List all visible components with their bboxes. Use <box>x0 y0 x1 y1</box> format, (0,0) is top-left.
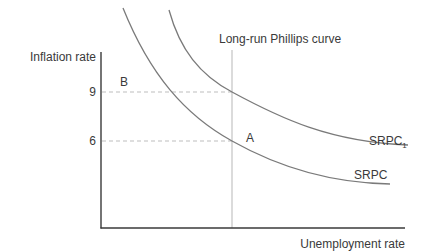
srpc1-label-main: SRPC <box>369 134 403 148</box>
srpc-label: SRPC <box>354 168 388 182</box>
y-axis-label: Inflation rate <box>30 50 96 64</box>
phillips-curve-diagram: Inflation rate Unemployment rate Long-ru… <box>0 0 423 251</box>
y-tick-6: 6 <box>89 134 96 148</box>
srpc1-label-subscript: 1 <box>402 141 407 150</box>
srpc1-label: SRPC1 <box>369 134 407 150</box>
y-tick-9: 9 <box>89 85 96 99</box>
srpc1-curve <box>169 10 408 145</box>
point-a-label: A <box>246 131 254 145</box>
x-axis-label: Unemployment rate <box>300 237 405 251</box>
lrpc-label: Long-run Phillips curve <box>219 32 341 46</box>
point-b-label: B <box>120 75 128 89</box>
